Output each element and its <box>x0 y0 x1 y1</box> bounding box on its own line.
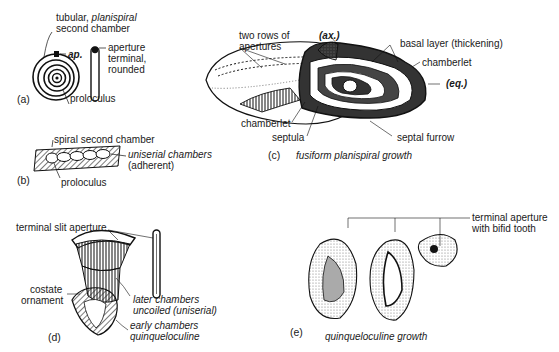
label-b-adherent: (adherent) <box>128 160 174 171</box>
panel-d-label: (d) <box>48 332 61 343</box>
label-b-uniserial: uniserial chambers <box>128 149 212 160</box>
label-a-tubular-prefix: tubular, <box>56 12 89 23</box>
label-a-planispiral: planispiral <box>92 12 137 23</box>
label-c-septula: septula <box>272 132 304 143</box>
label-c-axial: (ax.) <box>319 30 340 41</box>
label-c-chamberlet-left: chamberlet <box>241 118 290 129</box>
label-a-rounded: rounded <box>108 64 145 75</box>
panel-b-label: (b) <box>17 175 30 186</box>
panel-b-adherent-drawing <box>34 140 126 178</box>
label-c-two-rows: two rows of <box>239 30 290 41</box>
caption-e: quinqueloculine growth <box>325 331 427 342</box>
label-c-equatorial: (eq.) <box>446 78 467 89</box>
panel-e-quinqueloculine-drawing <box>309 218 470 320</box>
label-a-tubular: tubular, planispiral <box>56 12 137 23</box>
panel-a-label: (a) <box>17 94 30 105</box>
panel-e-label: (e) <box>290 327 303 338</box>
label-b-proloculus: proloculus <box>61 177 107 188</box>
label-d-ornament: ornament <box>21 295 63 306</box>
figure-artwork <box>0 0 559 352</box>
label-c-chamberlet-right: chamberlet <box>422 57 471 68</box>
label-e-bifid-tooth: with bifid tooth <box>472 223 536 234</box>
label-c-basal-layer: basal layer (thickening) <box>400 38 503 49</box>
label-a-aperture-abbr: ap. <box>68 49 82 60</box>
label-c-septal-furrow: septal furrow <box>397 132 454 143</box>
label-e-terminal-aperture: terminal aperture <box>472 212 548 223</box>
label-d-later-chambers: later chambers <box>133 294 199 305</box>
label-a-proloculus: proloculus <box>70 93 116 104</box>
caption-c: fusiform planispiral growth <box>296 150 412 161</box>
label-d-slit-aperture: terminal slit aperture <box>16 222 107 233</box>
label-a-terminal: terminal, <box>108 53 146 64</box>
label-d-costate: costate <box>30 284 62 295</box>
label-a-second-chamber: second chamber <box>56 23 130 34</box>
panel-c-label: (c) <box>268 150 280 161</box>
label-d-quinqueloculine: quinqueloculine <box>130 331 200 342</box>
label-d-early-chambers: early chambers <box>130 320 198 331</box>
label-b-spiral-second-chamber: spiral second chamber <box>54 134 155 145</box>
label-d-uncoiled: uncoiled (uniserial) <box>133 305 217 316</box>
label-c-apertures: apertures <box>239 41 281 52</box>
label-a-aperture: aperture <box>108 42 145 53</box>
